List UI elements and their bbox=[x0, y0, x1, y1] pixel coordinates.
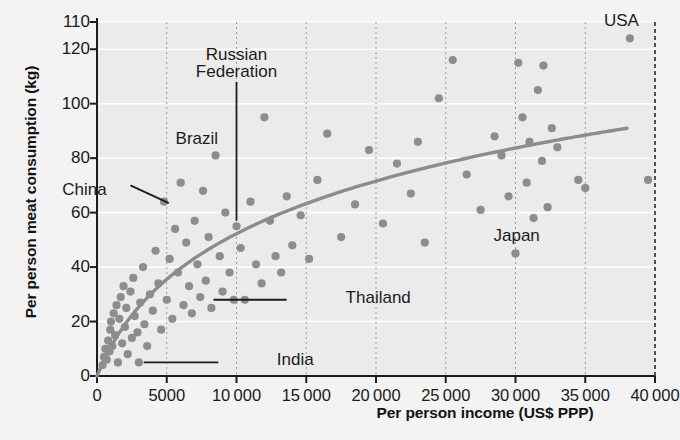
annotation-thailand: Thailand bbox=[346, 289, 411, 306]
annotation-china: China bbox=[62, 181, 106, 198]
annotation-russian-federation-line2: Federation bbox=[196, 63, 277, 80]
annotation-usa: USA bbox=[604, 12, 639, 29]
annotation-russian-federation-line1: Russian bbox=[206, 46, 267, 63]
annotation-japan: Japan bbox=[494, 227, 540, 244]
annotation-brazil: Brazil bbox=[176, 130, 219, 147]
annotation-india: India bbox=[277, 351, 314, 368]
